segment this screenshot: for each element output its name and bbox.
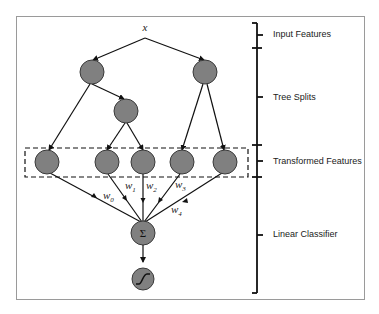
stage-label-tree-splits: Tree Splits (273, 92, 316, 102)
input-x-label: x (142, 21, 148, 33)
feature-node (95, 150, 119, 174)
tree-edges (49, 38, 224, 150)
split-node (114, 99, 138, 123)
stage-brackets (252, 23, 263, 293)
stage-label-input-features: Input Features (273, 29, 331, 39)
split-node (193, 60, 217, 84)
sum-icon: Σ (140, 227, 146, 239)
feature-node (170, 150, 194, 174)
feature-node (213, 150, 237, 174)
weight-w4: w4 (171, 203, 182, 218)
transformed-feature-nodes (35, 150, 237, 174)
feature-node (131, 150, 155, 174)
weight-edges (50, 173, 222, 222)
stage-label-linear-classifier: Linear Classifier (273, 229, 338, 239)
stage-label-transformed-features: Transformed Features (273, 156, 362, 166)
weight-w3: w3 (175, 178, 186, 193)
weight-w1: w1 (125, 179, 136, 194)
split-node (80, 60, 104, 84)
tree-split-nodes (80, 60, 217, 123)
weight-w2: w2 (146, 179, 157, 194)
feature-node (35, 150, 59, 174)
weight-w0: w0 (103, 189, 114, 204)
